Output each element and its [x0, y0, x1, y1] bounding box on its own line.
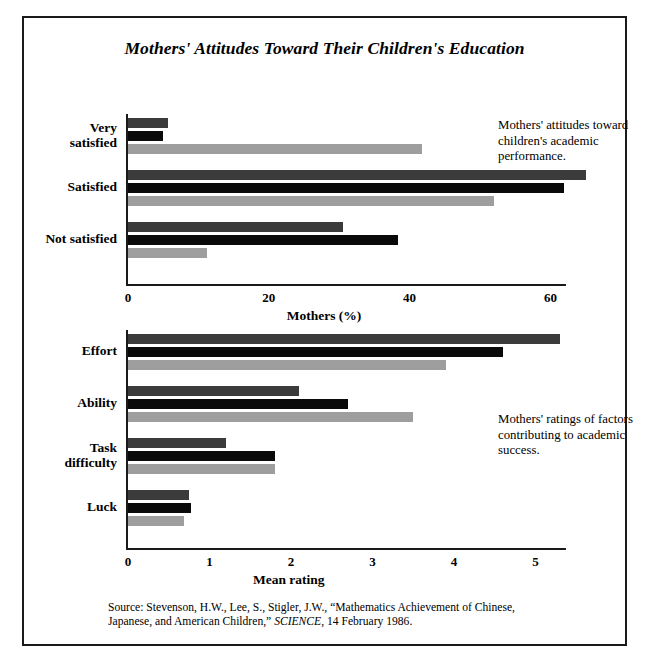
category-label: Not satisfied	[45, 232, 117, 247]
bar	[128, 196, 494, 206]
bar	[128, 386, 299, 396]
x-tick-label: 1	[206, 554, 213, 570]
category-label: Verysatisfied	[70, 121, 117, 150]
category-label: Satisfied	[67, 180, 117, 195]
x-axis-title: Mean rating	[253, 572, 325, 588]
x-tick-label: 60	[544, 290, 557, 306]
category-label: Effort	[82, 344, 117, 359]
bar	[128, 360, 446, 370]
bar	[128, 222, 343, 232]
x-tick-label: 20	[262, 290, 275, 306]
figure-frame: Mothers' Attitudes Toward Their Children…	[22, 16, 627, 646]
x-tick-label: 5	[532, 554, 539, 570]
bar	[128, 144, 422, 154]
x-tick-label: 0	[125, 290, 132, 306]
bar	[128, 248, 207, 258]
bar	[128, 334, 560, 344]
bar	[128, 464, 275, 474]
category-label: Luck	[87, 500, 117, 515]
x-tick-label: 3	[369, 554, 376, 570]
x-axis-line	[126, 548, 566, 550]
bar	[128, 503, 191, 513]
annotation-bottom: Mothers' ratings of factors contributing…	[498, 412, 649, 459]
source-text-tail: , 14 February 1986.	[321, 615, 412, 628]
bar	[128, 490, 189, 500]
bar	[128, 170, 586, 180]
bar	[128, 412, 413, 422]
category-label: Taskdifficulty	[65, 441, 118, 470]
x-tick-label: 4	[451, 554, 458, 570]
x-axis-title: Mothers (%)	[287, 308, 362, 324]
x-tick-label: 2	[288, 554, 295, 570]
source-journal: SCIENCE	[274, 615, 321, 628]
bar	[128, 183, 564, 193]
bar	[128, 451, 275, 461]
page-title: Mothers' Attitudes Toward Their Children…	[24, 38, 625, 59]
x-tick-label: 40	[403, 290, 416, 306]
category-label: Ability	[77, 396, 117, 411]
chart-panel-attitudes: VerysatisfiedSatisfiedNot satisfied02040…	[24, 114, 625, 314]
bar	[128, 399, 348, 409]
bar	[128, 131, 163, 141]
bar	[128, 118, 168, 128]
bar	[128, 347, 503, 357]
x-tick-label: 0	[125, 554, 132, 570]
bar	[128, 516, 184, 526]
annotation-top: Mothers' attitudes toward children's aca…	[498, 118, 649, 165]
source-note: Source: Stevenson, H.W., Lee, S., Stigle…	[108, 601, 558, 629]
bar	[128, 235, 398, 245]
x-axis-line	[126, 284, 566, 286]
chart-panel-ratings: EffortAbilityTaskdifficultyLuck012345Mea…	[24, 330, 625, 580]
bar	[128, 438, 226, 448]
